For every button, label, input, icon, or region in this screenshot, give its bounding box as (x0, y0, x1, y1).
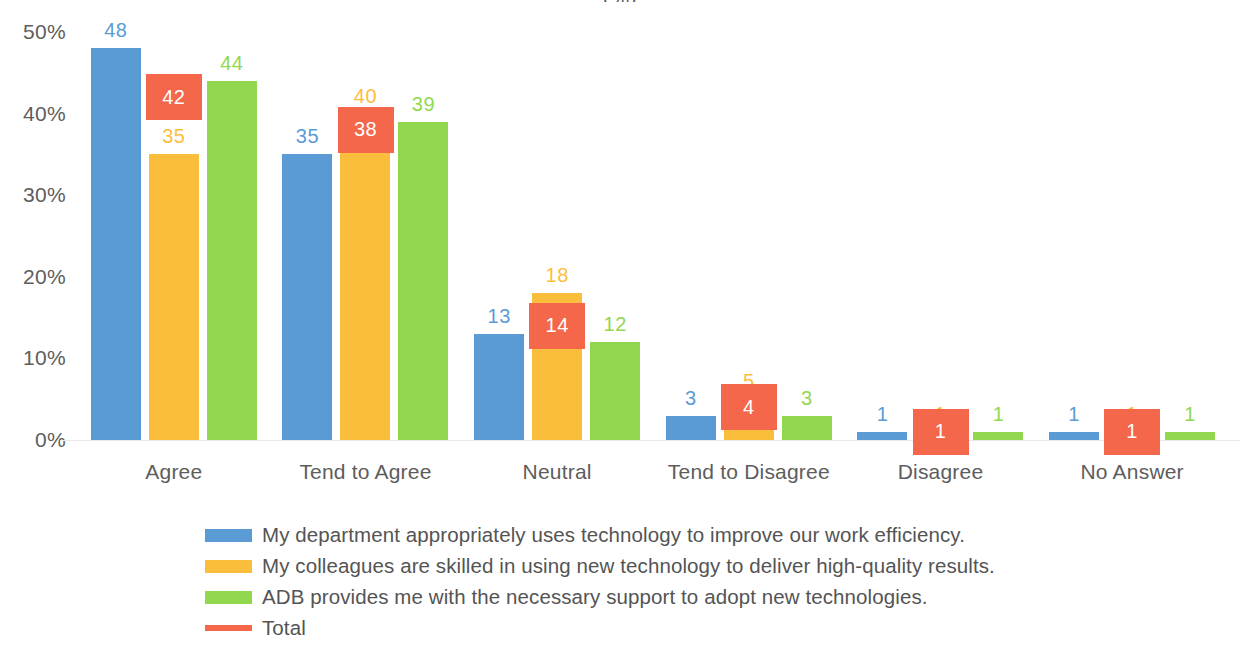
bar[interactable] (973, 432, 1023, 440)
bar-column[interactable]: 5 (724, 32, 774, 440)
legend-item[interactable]: My department appropriately uses technol… (205, 520, 1205, 550)
bar-column[interactable]: 3 (782, 32, 832, 440)
bar[interactable] (782, 416, 832, 440)
legend-swatch-icon (205, 560, 252, 573)
bar-column[interactable]: 18 (532, 32, 582, 440)
bar[interactable] (474, 334, 524, 440)
bar[interactable] (666, 416, 716, 440)
bar-column[interactable]: 35 (282, 32, 332, 440)
category-label: Tend to Agree (270, 460, 462, 484)
bar-group-bars: 131812 (461, 32, 653, 440)
bar-group-bars: 111 (1036, 32, 1228, 440)
category-label: Tend to Disagree (653, 460, 845, 484)
bar-value-label: 3 (801, 387, 813, 410)
bar-column[interactable]: 13 (474, 32, 524, 440)
total-value-box[interactable]: 1 (913, 409, 969, 455)
bar[interactable] (1165, 432, 1215, 440)
bar[interactable] (282, 154, 332, 440)
bar[interactable] (1049, 432, 1099, 440)
category-label: Neutral (461, 460, 653, 484)
total-value-box[interactable]: 1 (1104, 409, 1160, 455)
category-label: Disagree (845, 460, 1037, 484)
bar[interactable] (857, 432, 907, 440)
y-axis-tick: 50% (23, 20, 66, 44)
bar-group: 354039 (270, 32, 462, 440)
bar-column[interactable]: 1 (915, 32, 965, 440)
bar[interactable] (590, 342, 640, 440)
y-axis-tick: 40% (23, 102, 66, 126)
bar[interactable] (91, 48, 141, 440)
bar-value-label: 40 (354, 85, 377, 108)
bar-group-bars: 111 (845, 32, 1037, 440)
category-label: No Answer (1036, 460, 1228, 484)
bar-group: 131812 (461, 32, 653, 440)
bar-chart: (%) 0%10%20%30%40%50% 483544354039131812… (0, 0, 1240, 660)
bar-column[interactable]: 48 (91, 32, 141, 440)
bar-value-label: 12 (604, 313, 627, 336)
bar-value-label: 1 (1184, 403, 1196, 426)
bar-group: 353 (653, 32, 845, 440)
bar-group-bars: 353 (653, 32, 845, 440)
y-axis: 0%10%20%30%40%50% (0, 0, 76, 660)
bar-value-label: 3 (685, 387, 697, 410)
bar-column[interactable]: 1 (973, 32, 1023, 440)
bar-value-label: 48 (104, 19, 127, 42)
total-value-box[interactable]: 38 (338, 107, 394, 153)
legend-item[interactable]: Total (205, 613, 1205, 643)
bar-value-label: 35 (296, 125, 319, 148)
bar-group: 111 (1036, 32, 1228, 440)
bar[interactable] (207, 81, 257, 440)
bar-column[interactable]: 1 (1107, 32, 1157, 440)
bar-column[interactable]: 1 (1165, 32, 1215, 440)
legend-swatch-icon (205, 591, 252, 604)
bar-column[interactable]: 1 (1049, 32, 1099, 440)
bar[interactable] (398, 122, 448, 440)
bar[interactable] (340, 114, 390, 440)
plot-area: 483544354039131812353111111 (78, 32, 1228, 440)
bar-value-label: 44 (220, 52, 243, 75)
bar-value-label: 39 (412, 93, 435, 116)
axis-baseline (60, 440, 1240, 441)
category-label: Agree (78, 460, 270, 484)
bar-column[interactable]: 39 (398, 32, 448, 440)
y-axis-tick: 30% (23, 183, 66, 207)
bar-value-label: 13 (488, 305, 511, 328)
bar-value-label: 1 (993, 403, 1005, 426)
bar-value-label: 18 (546, 264, 569, 287)
legend-line-icon (205, 625, 252, 631)
total-value-box[interactable]: 42 (146, 74, 202, 120)
bar-column[interactable]: 1 (857, 32, 907, 440)
bar-value-label: 35 (162, 125, 185, 148)
legend-item[interactable]: ADB provides me with the necessary suppo… (205, 582, 1205, 612)
bar-column[interactable]: 40 (340, 32, 390, 440)
total-value-box[interactable]: 4 (721, 384, 777, 430)
bar-column[interactable]: 3 (666, 32, 716, 440)
y-axis-tick: 10% (23, 346, 66, 370)
bar-value-label: 1 (877, 403, 889, 426)
legend-swatch-icon (205, 529, 252, 542)
legend: My department appropriately uses technol… (205, 520, 1205, 644)
legend-label: ADB provides me with the necessary suppo… (262, 585, 928, 609)
bar-column[interactable]: 12 (590, 32, 640, 440)
legend-label: My colleagues are skilled in using new t… (262, 554, 995, 578)
bar-value-label: 1 (1068, 403, 1080, 426)
bar-column[interactable]: 44 (207, 32, 257, 440)
bar-group: 111 (845, 32, 1037, 440)
legend-label: Total (262, 616, 306, 640)
y-axis-tick: 20% (23, 265, 66, 289)
bar[interactable] (149, 154, 199, 440)
legend-label: My department appropriately uses technol… (262, 523, 965, 547)
bar-group-bars: 354039 (270, 32, 462, 440)
legend-item[interactable]: My colleagues are skilled in using new t… (205, 551, 1205, 581)
total-value-box[interactable]: 14 (529, 303, 585, 349)
chart-title: (%) (0, 0, 1240, 2)
